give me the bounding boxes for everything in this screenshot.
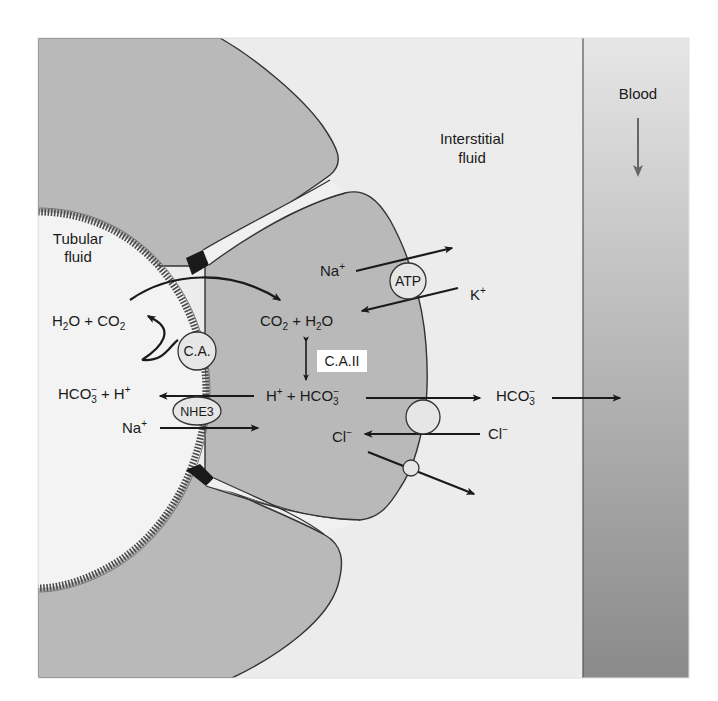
svg-text:C.A.II: C.A.II <box>324 353 359 369</box>
lumen-hco3-h: HCO−3 + H+ <box>58 384 131 405</box>
svg-text:C.A.: C.A. <box>183 343 210 359</box>
cl-channel <box>403 460 419 476</box>
interstitial-fluid-label-2: fluid <box>458 149 486 166</box>
hco3-cl-exchanger <box>406 400 440 434</box>
interstitial-fluid-label: Interstitial <box>440 130 504 147</box>
tubular-fluid-label-2: fluid <box>64 248 92 265</box>
svg-text:ATP: ATP <box>395 273 421 289</box>
blood-label: Blood <box>619 85 657 102</box>
luminal-carbonic-anhydrase: C.A. <box>178 332 216 370</box>
interstitial-hco3: HCO−3 <box>496 386 535 407</box>
tubular-fluid-label: Tubular <box>53 230 103 247</box>
blood-vessel <box>583 38 689 678</box>
na-k-atpase-pump: ATP <box>390 263 426 299</box>
nhe3-exchanger: NHE3 <box>173 397 221 425</box>
bicarbonate-reabsorption-diagram: Tubular fluid Interstitial fluid Blood H… <box>0 0 718 701</box>
cytosolic-carbonic-anhydrase-ii: C.A.II <box>317 350 367 372</box>
svg-text:NHE3: NHE3 <box>180 405 213 419</box>
